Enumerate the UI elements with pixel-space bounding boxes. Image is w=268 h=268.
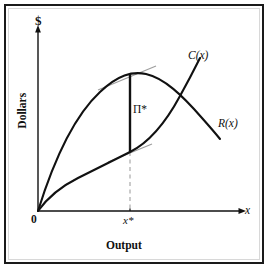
- profit-label: Π*: [133, 104, 147, 116]
- origin-label: 0: [31, 214, 37, 226]
- revenue-curve-label: R(x): [218, 118, 238, 130]
- dollar-sign-label: $: [35, 14, 42, 27]
- x-axis-variable-label: x: [245, 205, 250, 217]
- x-axis-title: Output: [106, 240, 142, 252]
- y-axis-title: Dollars: [17, 79, 29, 143]
- cost-curve-label: C(x): [188, 50, 208, 62]
- figure-container: C(x) R(x) Π* $ x 0 x* Output Dollars: [0, 0, 268, 268]
- plot-area: [0, 0, 268, 268]
- x-star-label: x*: [123, 215, 133, 226]
